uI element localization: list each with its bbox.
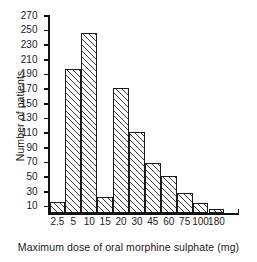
bar [161, 176, 177, 213]
y-axis-tick: 30 [44, 191, 49, 193]
y-axis-tick-label: 270 [21, 11, 38, 21]
y-axis-tick-label: 150 [21, 99, 38, 109]
y-axis-tick-label: 170 [21, 84, 38, 94]
y-axis-tick-label: 90 [26, 143, 37, 153]
x-axis-tick-label: 20 [115, 217, 126, 227]
bar [65, 69, 81, 213]
y-axis-tick-label: 210 [21, 55, 38, 65]
bar [97, 197, 113, 213]
y-axis-tick: 10 [44, 206, 49, 208]
y-axis-tick-label: 50 [26, 172, 37, 182]
y-axis-tick: 150 [44, 103, 49, 105]
x-axis-tick-label: 180 [208, 217, 225, 227]
y-axis-tick: 190 [44, 74, 49, 76]
bar [113, 88, 129, 213]
bar [81, 33, 97, 213]
y-axis-tick-label: 230 [21, 40, 38, 50]
x-axis-tick-label: 10 [84, 217, 95, 227]
x-axis-tick-label: 2.5 [50, 217, 64, 227]
x-axis-tick-label: 45 [147, 217, 158, 227]
y-axis-tick: 90 [44, 147, 49, 149]
x-axis-line [48, 213, 239, 215]
y-axis-tick-label: 70 [26, 157, 37, 167]
bar [177, 193, 193, 213]
x-axis-tick-label: 100 [192, 217, 209, 227]
y-axis-tick: 130 [44, 118, 49, 120]
bar [145, 163, 161, 213]
y-axis-tick: 50 [44, 176, 49, 178]
y-axis-tick-label: 130 [21, 113, 38, 123]
y-axis-tick-label: 30 [26, 187, 37, 197]
x-axis-tick-label: 15 [100, 217, 111, 227]
y-axis-tick: 250 [44, 30, 49, 32]
y-axis-tick-label: 110 [22, 128, 38, 138]
x-axis-tick-label: 75 [179, 217, 190, 227]
y-axis-tick: 110 [44, 132, 49, 134]
bar [50, 202, 66, 213]
y-axis-tick: 210 [44, 59, 49, 61]
y-axis-tick: 270 [44, 15, 49, 17]
plot-area: 1030507090110130150170190210230250270 2.… [48, 15, 239, 213]
histogram-chart: Number of patients 103050709011013015017… [0, 0, 257, 262]
bar [209, 209, 225, 213]
x-axis-title: Maximum dose of oral morphine sulphate (… [0, 241, 257, 253]
x-axis-tick-label: 30 [131, 217, 142, 227]
y-axis-tick-label: 190 [21, 69, 38, 79]
y-axis-tick: 70 [44, 162, 49, 164]
y-axis-tick-label: 250 [21, 25, 38, 35]
y-axis-tick-label: 10 [26, 201, 37, 211]
x-axis-tick-label: 60 [163, 217, 174, 227]
y-axis-tick: 230 [44, 44, 49, 46]
x-axis-end-tick [238, 209, 240, 215]
bar [129, 132, 145, 213]
y-axis-tick: 170 [44, 88, 49, 90]
bar [193, 203, 209, 213]
x-axis-tick-label: 5 [71, 217, 77, 227]
